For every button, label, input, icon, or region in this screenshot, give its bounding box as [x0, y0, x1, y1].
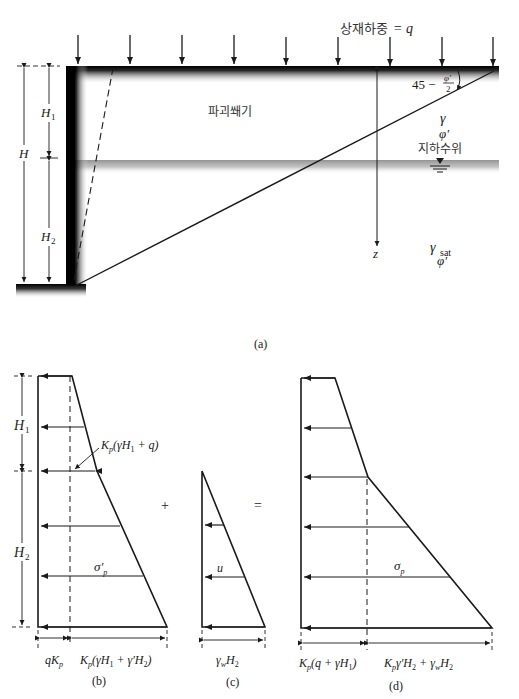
bottom-kp-d-left: Kp(q + γH1) [298, 656, 357, 672]
water-table-label: 지하수위 [418, 142, 462, 156]
surcharge-label: 상재하중 [340, 21, 388, 36]
bottom-gwH2: γwH2 [216, 653, 239, 669]
bottom-kp-d-right: Kpγ′H2 + γwH2 [383, 656, 453, 672]
angle-numerator: φ′ [444, 73, 452, 83]
figure-d: σp Kp(q + γH1) Kpγ′H2 + γwH2 (d) [298, 378, 492, 693]
label-H2-b: H [13, 545, 25, 560]
surcharge-eq: = q [393, 21, 413, 36]
dim-H1: H [40, 105, 51, 120]
dim-H2: H [40, 229, 51, 244]
label-H1-b: H [13, 418, 25, 433]
caption-b: (b) [92, 674, 106, 688]
plus-operator: + [161, 498, 169, 513]
upper-gamma: γ [440, 111, 446, 126]
lower-gamma: γ [430, 240, 436, 255]
stress-diagram-d [301, 378, 492, 628]
wall-face [66, 66, 75, 286]
angle-denominator: 2 [446, 84, 451, 94]
stress-diagram-b [38, 376, 167, 627]
pore-pressure-triangle [202, 471, 265, 627]
sigma-p: σp [394, 558, 404, 576]
equals-operator: = [254, 498, 262, 513]
annotation-kp-b: Kp(γH1 + q) [100, 438, 159, 454]
surcharge-arrows [78, 35, 493, 66]
caption-d: (d) [389, 679, 403, 693]
figure-b: H 1 H 2 Kp(γH1 + q) σ′p qKp Kp(γH1 + γ′H… [12, 376, 167, 688]
dim-H2-sub: 2 [51, 236, 56, 246]
u-label: u [217, 561, 223, 575]
failure-wedge-label: 파괴쐐기 [208, 105, 252, 119]
angle-prefix: 45 − [412, 77, 436, 92]
dim-H1-sub: 1 [51, 112, 56, 122]
depth-axis-label: z [372, 246, 378, 261]
earth-pressure-diagram: 상재하중 = q 파괴쐐기 z 45 − φ′ 2 γ φ′ 지하수위 γ sa… [0, 0, 519, 699]
bottom-qkp: qKp [45, 653, 63, 669]
dimension-lines [17, 66, 60, 282]
lower-phi: φ′ [437, 253, 447, 268]
dim-H: H [18, 146, 29, 161]
label-H1-b-sub: 1 [25, 425, 30, 435]
label-H2-b-sub: 2 [25, 552, 30, 562]
water-table-band [74, 160, 499, 174]
caption-c: (c) [226, 675, 239, 689]
figure-a: 상재하중 = q 파괴쐐기 z 45 − φ′ 2 γ φ′ 지하수위 γ sa… [16, 21, 499, 351]
upper-phi: φ′ [439, 126, 449, 141]
sigma-p-prime: σ′p [94, 559, 107, 577]
caption-a: (a) [254, 337, 267, 351]
bottom-kp-b: Kp(γH1 + γ′H2) [79, 653, 152, 669]
